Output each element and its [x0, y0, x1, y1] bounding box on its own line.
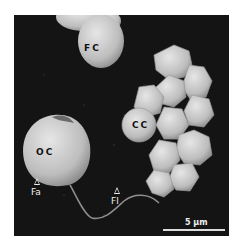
- label-fc: FC: [84, 43, 101, 53]
- label-fl: Fl: [111, 196, 119, 206]
- fl-arrow-icon: [114, 187, 120, 194]
- oc-cell: [23, 115, 90, 186]
- fa-arrow-icon: [34, 178, 40, 185]
- label-cc: CC: [132, 120, 149, 130]
- label-oc: OC: [36, 147, 54, 157]
- fc-cell-group: [56, 15, 124, 68]
- fc-cell: [78, 15, 124, 68]
- scale-bar-label: 5 μm: [185, 218, 208, 227]
- label-fa: Fa: [31, 187, 41, 197]
- micrograph-scene: [14, 15, 229, 236]
- micrograph: FC CC OC Fa Fl 5 μm: [14, 15, 229, 236]
- scale-bar: [163, 229, 225, 231]
